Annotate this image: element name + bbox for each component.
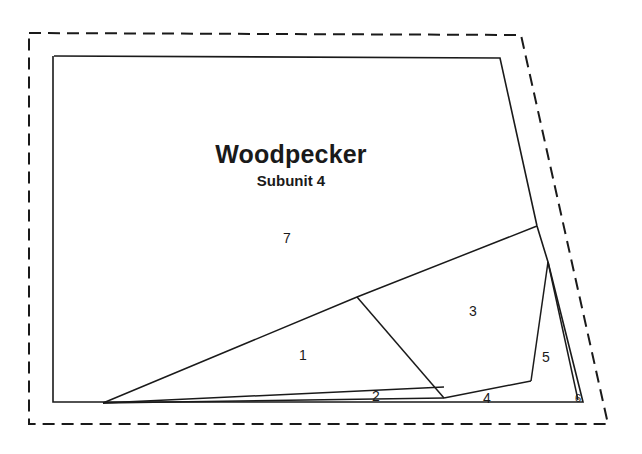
subunit-map-figure: Woodpecker Subunit 4 7 1 2 3 4 5 6 <box>0 0 642 454</box>
region-label-2: 2 <box>372 388 380 404</box>
unit-subtitle: Subunit 4 <box>257 172 326 189</box>
region-label-3: 3 <box>469 303 477 319</box>
map-canvas: Woodpecker Subunit 4 7 1 2 3 4 5 6 <box>0 0 642 454</box>
region-label-7: 7 <box>283 230 291 246</box>
region-label-4: 4 <box>483 390 491 406</box>
region-label-5: 5 <box>542 349 550 365</box>
map-background <box>0 0 642 454</box>
unit-title: Woodpecker <box>215 140 367 168</box>
region-label-6: 6 <box>575 392 581 404</box>
region-label-1: 1 <box>299 347 307 363</box>
